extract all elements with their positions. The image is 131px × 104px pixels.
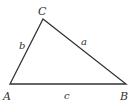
vertex-label-b: B: [119, 90, 128, 103]
vertex-label-a: A: [2, 90, 11, 103]
triangle-abc: [10, 19, 126, 84]
side-label-c: c: [64, 90, 70, 101]
triangle-diagram: C A B b a c: [0, 0, 131, 104]
side-label-b: b: [19, 40, 25, 51]
vertex-label-c: C: [38, 5, 47, 18]
side-label-a: a: [81, 36, 87, 47]
